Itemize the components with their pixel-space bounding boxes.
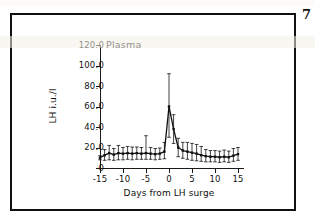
data-point-marker [195, 152, 197, 154]
data-point-marker [126, 152, 128, 154]
data-point-marker [163, 150, 165, 152]
data-point-marker [200, 154, 202, 156]
data-point-marker [177, 146, 179, 148]
data-point-marker [140, 152, 142, 154]
data-point-marker [113, 153, 115, 155]
data-point-marker [168, 105, 170, 107]
data-point-marker [103, 154, 105, 156]
data-point-marker [131, 152, 133, 154]
figure-frame: Plasma 120.0100.080.060.040.020.00 -15-1… [10, 13, 296, 211]
data-point-marker [122, 152, 124, 154]
page-folio-number: 7 [302, 8, 311, 21]
data-point-marker [223, 156, 225, 158]
data-point-marker [172, 128, 174, 130]
data-point-marker [182, 149, 184, 151]
chart-plot-svg [12, 15, 298, 213]
data-point-marker [136, 152, 138, 154]
scan-artifact-band-top [0, 0, 315, 6]
data-point-marker [232, 155, 234, 157]
data-point-marker [214, 156, 216, 158]
data-point-marker [186, 150, 188, 152]
data-point-marker [117, 152, 119, 154]
data-point-marker [218, 156, 220, 158]
series-plasma-lh [98, 74, 240, 163]
data-point-marker [228, 156, 230, 158]
page-canvas: 7 Plasma 120.0100.080.060.040.020.00 -15… [0, 0, 315, 223]
data-point-marker [145, 152, 147, 154]
data-point-marker [108, 152, 110, 154]
data-point-marker [191, 151, 193, 153]
data-point-marker [154, 153, 156, 155]
data-point-marker [149, 152, 151, 154]
data-point-marker [99, 157, 101, 159]
data-point-marker [209, 156, 211, 158]
data-point-marker [159, 152, 161, 154]
data-point-marker [205, 155, 207, 157]
data-point-marker [237, 153, 239, 155]
